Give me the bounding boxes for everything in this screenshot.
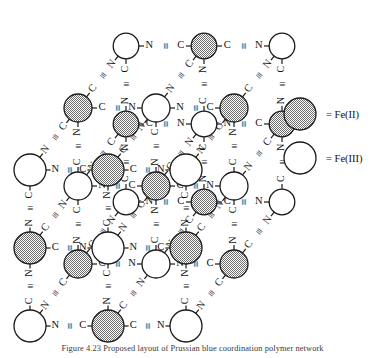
bridge-label: C bbox=[119, 66, 130, 73]
bridge-label: N bbox=[255, 195, 263, 206]
bridge-label: ≡ bbox=[112, 105, 124, 112]
bridge-label: C bbox=[275, 175, 286, 182]
bridge-label: N bbox=[179, 270, 190, 277]
bridge-label: N bbox=[116, 220, 130, 233]
bridge-label: N bbox=[255, 39, 263, 50]
atom-fe2 bbox=[92, 310, 124, 342]
bridge-label: C bbox=[101, 219, 112, 226]
atom-fe2 bbox=[14, 232, 46, 264]
atom-fe3 bbox=[269, 33, 295, 59]
bond-line bbox=[87, 93, 90, 97]
bond-line bbox=[196, 154, 199, 158]
bridge-label: ≡ bbox=[27, 202, 33, 214]
legend-marker-fe2 bbox=[284, 98, 316, 130]
bond-line bbox=[165, 249, 168, 253]
bridge-label: C bbox=[52, 241, 59, 252]
bridge-label: C bbox=[179, 297, 190, 304]
bridge-label: C bbox=[255, 117, 262, 128]
bridge-label: N bbox=[194, 298, 208, 311]
bridge-label: ≡ bbox=[49, 286, 61, 299]
bond-line bbox=[243, 249, 246, 253]
bond-line bbox=[40, 232, 43, 236]
bond-line bbox=[196, 310, 199, 314]
bridge-label: ≡ bbox=[27, 280, 33, 292]
bridge-label: N bbox=[71, 128, 82, 135]
bridge-label: ≡ bbox=[175, 69, 187, 82]
bridge-label: N bbox=[23, 219, 34, 226]
bridge-label: ≡ bbox=[253, 69, 265, 82]
bridge-label: ≡ bbox=[253, 147, 265, 160]
prussian-blue-lattice-diagram: N≡CC≡NC≡NN≡CC≡NC≡NN≡CN≡CC≡NN≡CN≡CC≡NC≡NN… bbox=[0, 0, 385, 358]
bridge-label: C bbox=[227, 206, 238, 213]
bridge-label: C bbox=[275, 66, 286, 73]
bridge-label: ≡ bbox=[238, 121, 250, 128]
bond-line bbox=[193, 134, 196, 138]
bridge-label: N bbox=[241, 159, 255, 172]
bridge-label: N bbox=[101, 192, 112, 199]
bond-line bbox=[271, 56, 274, 60]
atom-fe2 bbox=[220, 94, 248, 122]
atom-fe3 bbox=[14, 310, 46, 342]
bridge-label: C bbox=[242, 82, 255, 94]
bond-line bbox=[222, 275, 225, 279]
bridge-label: ≡ bbox=[183, 202, 189, 214]
bridge-label: ≡ bbox=[142, 323, 154, 330]
bridge-label: N bbox=[227, 236, 238, 243]
bridge-label: N bbox=[206, 179, 214, 190]
bridge-label: N bbox=[128, 101, 136, 112]
bond-line bbox=[40, 310, 43, 314]
bridge-label: ≡ bbox=[238, 199, 250, 206]
atom-fe3 bbox=[142, 94, 170, 122]
bridge-label: ≡ bbox=[279, 78, 285, 90]
bridge-label: ≡ bbox=[201, 78, 207, 90]
atom-fe2 bbox=[113, 111, 139, 137]
bridge-label: N bbox=[275, 144, 286, 151]
atom-fe2 bbox=[191, 33, 217, 59]
bridge-label: C bbox=[98, 101, 105, 112]
bridge-label: ≡ bbox=[105, 280, 111, 292]
bridge-label: ≡ bbox=[190, 105, 202, 112]
bridge-label: N bbox=[163, 81, 177, 94]
bridge-label: ≡ bbox=[238, 43, 250, 50]
bond-line bbox=[271, 212, 274, 216]
bridge-label: C bbox=[206, 257, 213, 268]
bridge-label: C bbox=[71, 206, 82, 213]
bridge-label: N bbox=[51, 319, 59, 330]
bridge-label: N bbox=[51, 163, 59, 174]
atom-fe3 bbox=[14, 154, 46, 186]
bridge-label: ≡ bbox=[64, 323, 76, 330]
bridge-label: N bbox=[275, 97, 286, 104]
bridge-label: ≡ bbox=[97, 69, 109, 82]
bridge-label: ≡ bbox=[153, 140, 159, 152]
atom-fe3 bbox=[191, 111, 217, 137]
bridge-label: C bbox=[224, 39, 231, 50]
bond-line bbox=[66, 197, 69, 201]
bridge-label: ≡ bbox=[253, 225, 265, 238]
bridge-label: N bbox=[38, 142, 52, 155]
bridge-label: N bbox=[179, 219, 190, 226]
bridge-label: C bbox=[179, 192, 190, 199]
legend-marker-fe3 bbox=[284, 142, 316, 174]
bridge-label: N bbox=[149, 206, 160, 213]
bond-line bbox=[243, 93, 246, 97]
bridge-label: ≡ bbox=[205, 286, 217, 299]
bond-line bbox=[165, 93, 168, 97]
atom-fe3 bbox=[269, 189, 295, 215]
legend-label-fe2: = Fe(II) bbox=[326, 109, 360, 121]
bridge-label: C bbox=[130, 319, 137, 330]
bridge-label: C bbox=[23, 297, 34, 304]
bridge-label: C bbox=[130, 163, 137, 174]
bridge-label: ≡ bbox=[123, 78, 129, 90]
bridge-label: C bbox=[23, 192, 34, 199]
bridge-label: ≡ bbox=[153, 218, 159, 230]
bridge-label: C bbox=[101, 270, 112, 277]
bridge-label: ≡ bbox=[75, 140, 81, 152]
atom-fe3 bbox=[113, 33, 139, 59]
bond-line bbox=[87, 249, 90, 253]
bridge-label: ≡ bbox=[160, 199, 172, 206]
atom-fe3 bbox=[142, 250, 170, 278]
bond-line bbox=[118, 154, 121, 158]
bond-line bbox=[87, 171, 90, 175]
bridge-label: N bbox=[128, 257, 136, 268]
bridge-label: N bbox=[38, 298, 52, 311]
